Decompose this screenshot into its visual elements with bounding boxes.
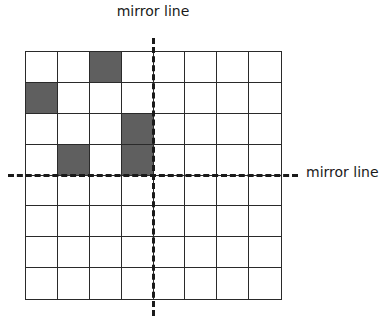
vertical-mirror-label: mirror line [0,3,306,19]
grid-cell [185,206,217,237]
grid-cell [154,237,186,268]
grid-cell [249,52,281,83]
grid-cell [154,83,186,114]
grid-cell [122,176,154,207]
grid-cell [58,206,90,237]
grid-cell [154,176,186,207]
grid-cell-shaded [26,83,58,114]
grid-cell [90,114,122,145]
grid-cell [217,52,249,83]
grid-cell [185,145,217,176]
grid-cell [90,176,122,207]
horizontal-mirror-line [8,174,298,177]
horizontal-mirror-label: mirror line [306,164,379,180]
grid-cell [122,237,154,268]
grid-cell [58,176,90,207]
grid-cell [58,52,90,83]
grid-cell [154,52,186,83]
grid-cell [217,83,249,114]
grid-cell [90,206,122,237]
grid-cell [90,145,122,176]
grid-cell [26,237,58,268]
grid-cell [217,145,249,176]
grid-cell [249,114,281,145]
grid-cell [217,268,249,299]
grid-cell [122,52,154,83]
grid-cell [185,83,217,114]
grid-cell [90,268,122,299]
grid-cell [154,114,186,145]
grid-cell [26,206,58,237]
grid-cell [249,145,281,176]
grid-cell [154,145,186,176]
grid-cell [185,176,217,207]
grid-cell [58,83,90,114]
grid-cell [217,237,249,268]
grid-cell [217,206,249,237]
grid-cell-shaded [90,52,122,83]
grid-cell-shaded [58,145,90,176]
grid-cell [26,145,58,176]
grid-cell [26,176,58,207]
grid-cell [26,268,58,299]
grid-cell [26,52,58,83]
grid-cell [58,114,90,145]
grid-cell [154,206,186,237]
grid-cell [154,268,186,299]
grid-cell [249,83,281,114]
grid-cell [90,237,122,268]
grid-cell [249,206,281,237]
grid-cell [249,268,281,299]
grid-cell [217,114,249,145]
grid-cell [122,83,154,114]
grid-cell [122,206,154,237]
grid-cell [185,52,217,83]
grid-cell [26,114,58,145]
grid-cell [249,176,281,207]
grid-cell [217,176,249,207]
grid-cell [90,83,122,114]
grid-cell [122,268,154,299]
grid-cell [58,237,90,268]
grid-cell [249,237,281,268]
grid-cell [185,114,217,145]
grid-cell [185,237,217,268]
grid-cell [58,268,90,299]
grid-cell-shaded [122,114,154,145]
grid-cell-shaded [122,145,154,176]
vertical-mirror-line [152,38,155,316]
grid-cell [185,268,217,299]
